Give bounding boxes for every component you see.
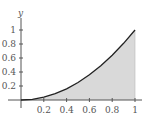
x-tick-label: 1 [132,105,138,115]
y-tick-label: 1 [10,25,16,35]
x-tick-label: 0.2 [37,105,51,115]
shaded-area [21,30,135,100]
y-axis-label: y [17,8,24,18]
x-tick-label: 0.4 [59,105,74,115]
y-tick-label: 0.2 [2,81,16,91]
y-tick-label: 0.8 [2,39,17,49]
y-tick-label: 0.6 [2,53,17,63]
chart: 0.20.40.60.810.20.40.60.81 y [0,0,146,116]
y-tick-label: 0.4 [2,67,17,77]
x-tick-label: 0.6 [82,105,97,115]
x-tick-label: 0.8 [105,105,120,115]
